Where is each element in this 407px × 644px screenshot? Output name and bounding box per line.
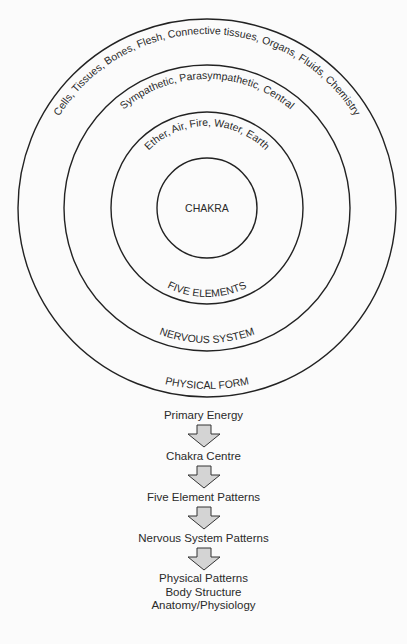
chakra-label: CHAKRA — [185, 202, 229, 214]
flow-step-chakra-centre: Chakra Centre — [0, 449, 407, 463]
down-arrow-icon — [186, 424, 222, 448]
down-arrow-icon — [186, 547, 222, 571]
flow-step-physical-patterns: Physical Patterns Body Structure Anatomy… — [0, 572, 407, 613]
anatomy-physiology-line: Anatomy/Physiology — [0, 599, 407, 613]
flow-step-nervous-system-patterns: Nervous System Patterns — [0, 531, 407, 545]
flow-step-primary-energy: Primary Energy — [0, 408, 407, 422]
concentric-rings-diagram: Cells, Tissues, Bones, Flesh, Connective… — [0, 0, 407, 405]
physical-form-label: PHYSICAL FORM — [164, 374, 249, 391]
five-elements-sublabel: Ether, Air, Fire, Water, Earth — [142, 116, 273, 152]
energy-flow-chart: Primary Energy Chakra Centre Five Elemen… — [0, 408, 407, 613]
five-elements-label: FIVE ELEMENTS — [166, 278, 248, 299]
physical-form-sublabel: Cells, Tissues, Bones, Flesh, Connective… — [51, 24, 364, 118]
physical-patterns-line: Physical Patterns — [0, 572, 407, 586]
down-arrow-icon — [186, 465, 222, 489]
body-structure-line: Body Structure — [0, 586, 407, 600]
down-arrow-icon — [186, 506, 222, 530]
nervous-system-sublabel: Sympathetic, Parasympathetic, Central — [117, 69, 297, 111]
flow-step-five-element-patterns: Five Element Patterns — [0, 490, 407, 504]
nervous-system-label: NERVOUS SYSTEM — [158, 325, 255, 345]
